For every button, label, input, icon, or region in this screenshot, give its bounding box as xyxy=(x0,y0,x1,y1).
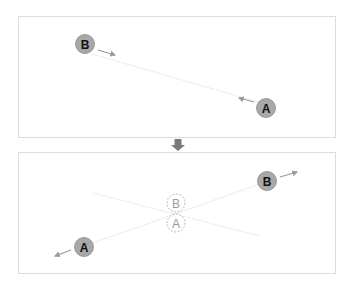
node-a-label: A xyxy=(80,241,89,255)
arrow-b-right-icon xyxy=(98,50,115,55)
arrow-a-out-icon xyxy=(55,250,71,256)
connection-line xyxy=(92,54,258,102)
ghost-node-b: B xyxy=(167,194,185,212)
connection-line-after xyxy=(90,184,260,244)
diagram-canvas: B A B A B A xyxy=(0,0,356,292)
node-a-label: A xyxy=(262,102,271,116)
ghost-node-a: A xyxy=(167,214,185,232)
node-b-bottom: B xyxy=(258,172,277,191)
down-arrow-icon xyxy=(171,139,185,151)
node-a-top: A xyxy=(257,99,276,118)
node-b-top: B xyxy=(76,35,95,54)
node-a-bottom: A xyxy=(75,238,94,257)
ghost-b-label: B xyxy=(172,197,180,211)
node-b-label: B xyxy=(263,175,272,189)
node-b-label: B xyxy=(81,38,90,52)
ghost-a-label: A xyxy=(172,217,180,231)
arrow-b-out-icon xyxy=(280,172,297,177)
